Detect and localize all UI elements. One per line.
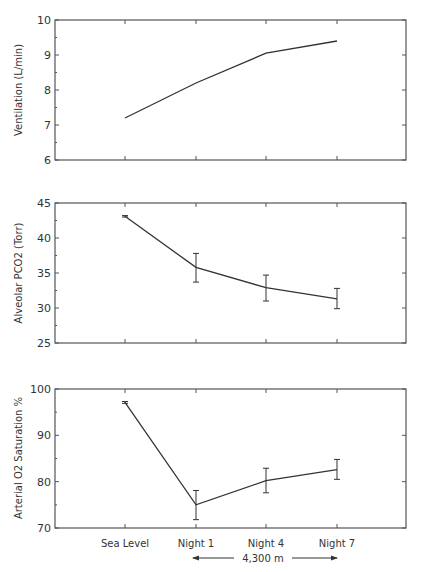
altitude-label: 4,300 m [242, 553, 284, 564]
left-arrow-icon [192, 556, 199, 561]
panel-3: 708090100Arterial O2 Saturation % [13, 383, 406, 535]
data-line [125, 216, 337, 299]
y-tick-label: 25 [37, 337, 51, 350]
figure-canvas: 678910Ventilation (L/min)2530354045Alveo… [0, 0, 422, 572]
data-line [125, 41, 337, 118]
y-tick-label: 30 [37, 302, 51, 315]
x-tick-label: Night 7 [319, 538, 355, 549]
x-tick-label: Night 1 [178, 538, 214, 549]
panel-2: 2530354045Alveolar PCO2 (Torr) [13, 197, 406, 350]
y-axis-label: Alveolar PCO2 (Torr) [13, 223, 24, 324]
x-tick-label: Sea Level [101, 538, 149, 549]
plot-frame [55, 389, 406, 528]
y-tick-label: 6 [44, 154, 51, 167]
y-tick-label: 45 [37, 197, 51, 210]
figure: 678910Ventilation (L/min)2530354045Alveo… [0, 0, 422, 572]
y-tick-label: 7 [44, 119, 51, 132]
y-tick-label: 10 [37, 14, 51, 27]
y-tick-label: 70 [37, 522, 51, 535]
y-tick-label: 100 [30, 383, 51, 396]
y-axis-label: Arterial O2 Saturation % [13, 397, 24, 519]
y-tick-label: 35 [37, 267, 51, 280]
y-tick-label: 90 [37, 429, 51, 442]
y-tick-label: 40 [37, 232, 51, 245]
y-tick-label: 8 [44, 84, 51, 97]
plot-frame [55, 20, 406, 160]
data-line [125, 402, 337, 504]
y-tick-label: 9 [44, 49, 51, 62]
plot-frame [55, 203, 406, 343]
altitude-annotation: 4,300 m [192, 553, 338, 564]
panel-1: 678910Ventilation (L/min) [13, 14, 406, 167]
x-tick-label: Night 4 [248, 538, 284, 549]
y-axis-label: Ventilation (L/min) [13, 44, 24, 136]
y-tick-label: 80 [37, 476, 51, 489]
right-arrow-icon [331, 556, 338, 561]
